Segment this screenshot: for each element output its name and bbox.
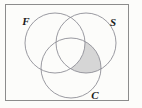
set-label-f: F <box>21 15 30 27</box>
set-label-c: C <box>91 89 99 101</box>
venn-diagram-figure: F S C <box>0 0 142 108</box>
venn-diagram-svg: F S C <box>0 0 142 108</box>
set-label-s: S <box>110 16 116 28</box>
